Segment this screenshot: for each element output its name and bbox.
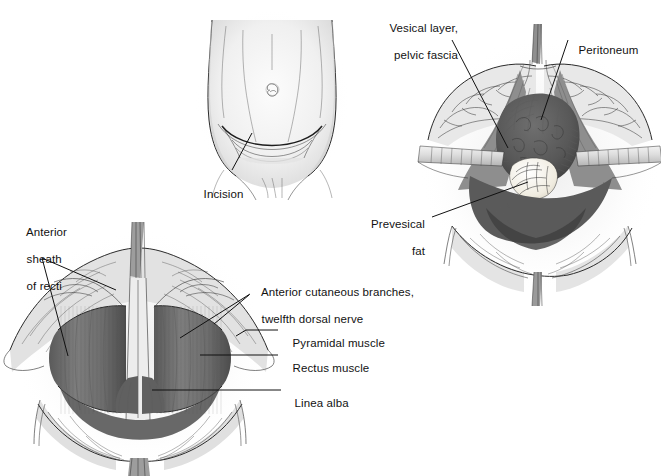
label-rectus-muscle: Rectus muscle — [286, 348, 369, 375]
label-prevesical-fat-line2: fat — [412, 245, 425, 257]
label-peritoneum: Peritoneum — [572, 30, 638, 57]
label-pyramidal-line1: Pyramidal muscle — [293, 337, 385, 349]
label-incision-line1: Incision — [204, 188, 244, 200]
label-anterior-sheath-of-recti: Anterior sheath of recti — [20, 212, 90, 293]
label-pyramidal-muscle: Pyramidal muscle — [286, 323, 385, 350]
label-anterior-sheath-line3: of recti — [27, 280, 62, 292]
label-anterior-sheath-line2: sheath — [27, 253, 62, 265]
label-vesical-layer-line1: Vesical layer, — [389, 22, 458, 34]
label-vesical-layer: Vesical layer, pelvic fascia — [368, 8, 458, 62]
label-prevesical-fat: Prevesical fat — [353, 204, 425, 258]
label-incision: Incision — [197, 174, 243, 201]
label-anterior-cutaneous-branches: Anterior cutaneous branches, twelfth dor… — [255, 272, 430, 326]
label-linea-alba-line1: Linea alba — [295, 397, 349, 409]
label-vesical-layer-line2: pelvic fascia — [394, 49, 458, 61]
label-anterior-cutaneous-line1: Anterior cutaneous branches, — [261, 286, 414, 298]
label-rectus-line1: Rectus muscle — [293, 362, 370, 374]
label-linea-alba: Linea alba — [288, 383, 349, 410]
label-prevesical-fat-line1: Prevesical — [371, 218, 425, 230]
label-anterior-sheath-line1: Anterior — [26, 226, 67, 238]
label-peritoneum-line1: Peritoneum — [579, 44, 639, 56]
